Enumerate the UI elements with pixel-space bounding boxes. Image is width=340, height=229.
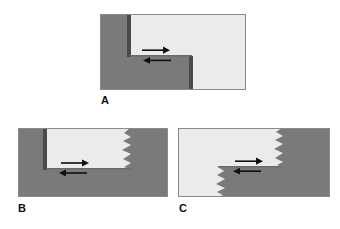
fault-trace-left-wall (43, 128, 47, 170)
fault-trace-lower (189, 56, 193, 90)
panel-c-jagged-stepover (178, 128, 330, 197)
fault-trace-upper (127, 14, 131, 57)
panel-b-pull-apart-basin (18, 128, 168, 197)
fault-trace-step (130, 55, 192, 57)
fault-trace-basin-floor (46, 168, 131, 169)
fault-trace-step (218, 166, 282, 167)
panel-label-b: B (18, 203, 26, 214)
panel-a-releasing-stepover (100, 14, 246, 90)
panel-label-a: A (101, 95, 109, 106)
figure-container: A B (0, 0, 340, 229)
panel-label-c: C (179, 203, 187, 214)
